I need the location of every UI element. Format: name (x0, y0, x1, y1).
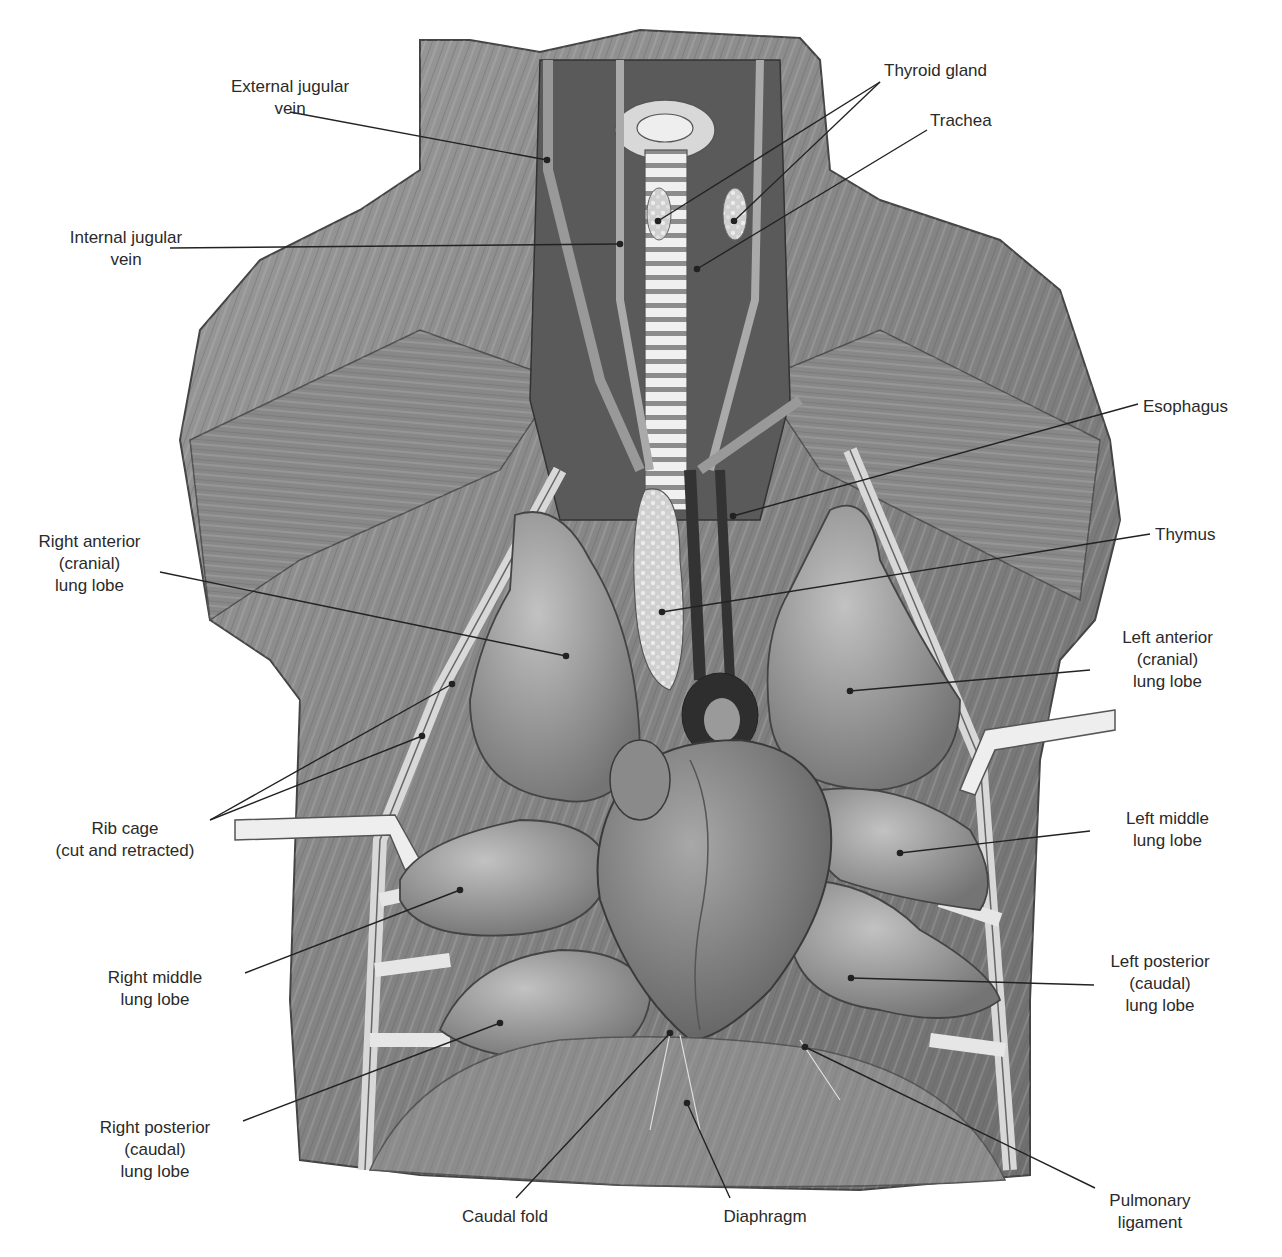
label-text: Right anterior (12, 531, 167, 553)
leader-dot (497, 1020, 502, 1025)
leader-dot (848, 975, 853, 980)
label-diaphragm: Diaphragm (700, 1206, 830, 1228)
leader-dot (449, 681, 454, 686)
leader-dot (659, 609, 664, 614)
label-text: Diaphragm (700, 1206, 830, 1228)
leader-dot (731, 218, 736, 223)
leader-dot (684, 1100, 689, 1105)
label-text: Left posterior (1085, 951, 1235, 973)
neck-region (530, 60, 800, 520)
label-thymus: Thymus (1155, 524, 1255, 546)
label-text: lung lobe (1095, 671, 1240, 693)
label-text: External jugular (190, 76, 390, 98)
label-pulmonary-ligament: Pulmonaryligament (1090, 1190, 1210, 1234)
label-trachea: Trachea (930, 110, 1030, 132)
leader-dot (457, 887, 462, 892)
label-text: (caudal) (1085, 973, 1235, 995)
leader-dot (847, 688, 852, 693)
label-text: Esophagus (1143, 396, 1263, 418)
label-text: Caudal fold (440, 1206, 570, 1228)
label-esophagus: Esophagus (1143, 396, 1263, 418)
label-text: lung lobe (80, 989, 230, 1011)
label-left-anterior-lung-lobe: Left anterior(cranial)lung lobe (1095, 627, 1240, 693)
leader-dot (655, 218, 660, 223)
label-internal-jugular-vein: Internal jugularvein (26, 227, 226, 271)
leader-dot (897, 850, 902, 855)
label-text: Thymus (1155, 524, 1255, 546)
label-caudal-fold: Caudal fold (440, 1206, 570, 1228)
label-text: (cranial) (12, 553, 167, 575)
leader-dot (802, 1044, 807, 1049)
leader-dot (419, 733, 424, 738)
label-text: Thyroid gland (884, 60, 1034, 82)
label-text: vein (26, 249, 226, 271)
thorax-illustration (0, 0, 1282, 1257)
label-external-jugular-vein: External jugularvein (190, 76, 390, 120)
label-right-anterior-lung-lobe: Right anterior(cranial)lung lobe (12, 531, 167, 597)
label-text: Right posterior (60, 1117, 250, 1139)
label-text: Left middle (1095, 808, 1240, 830)
label-right-middle-lung-lobe: Right middlelung lobe (80, 967, 230, 1011)
label-left-posterior-lung-lobe: Left posterior(caudal)lung lobe (1085, 951, 1235, 1017)
label-text: Rib cage (25, 818, 225, 840)
label-text: (cut and retracted) (25, 840, 225, 862)
label-text: ligament (1090, 1212, 1210, 1234)
label-text: (caudal) (60, 1139, 250, 1161)
leader-dot (730, 513, 735, 518)
label-text: Internal jugular (26, 227, 226, 249)
label-text: Right middle (80, 967, 230, 989)
label-text: lung lobe (12, 575, 167, 597)
label-text: Left anterior (1095, 627, 1240, 649)
label-text: lung lobe (1085, 995, 1235, 1017)
leader-dot (617, 241, 622, 246)
leader-dot (563, 653, 568, 658)
leader-dot (544, 157, 549, 162)
label-right-posterior-lung-lobe: Right posterior(caudal)lung lobe (60, 1117, 250, 1183)
leader-dot (694, 266, 699, 271)
label-left-middle-lung-lobe: Left middlelung lobe (1095, 808, 1240, 852)
label-text: Pulmonary (1090, 1190, 1210, 1212)
leader-dot (667, 1030, 672, 1035)
label-text: Trachea (930, 110, 1030, 132)
label-text: lung lobe (1095, 830, 1240, 852)
label-text: vein (190, 98, 390, 120)
label-text: (cranial) (1095, 649, 1240, 671)
label-text: lung lobe (60, 1161, 250, 1183)
label-thyroid-gland: Thyroid gland (884, 60, 1034, 82)
label-rib-cage: Rib cage(cut and retracted) (25, 818, 225, 862)
